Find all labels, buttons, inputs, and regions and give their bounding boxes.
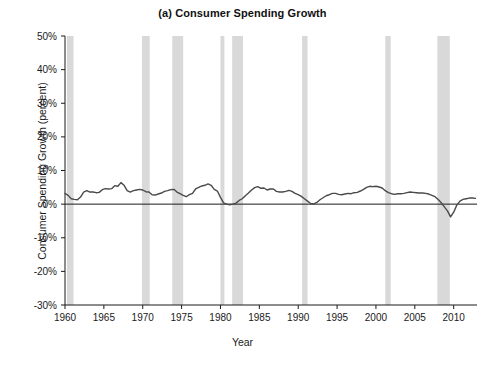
- x-tick-label: 1965: [93, 312, 116, 323]
- chart-figure: (a) Consumer Spending Growth Consumer Sp…: [0, 0, 485, 367]
- x-tick-group: 1960196519701975198019851990199520002005…: [54, 305, 465, 323]
- x-tick-label: 1980: [209, 312, 232, 323]
- y-tick-label: -20%: [34, 266, 57, 277]
- plot-area: 50%40%30%20%10%0%-10%-20%-30% 1960196519…: [0, 0, 485, 367]
- data-series-group: [65, 183, 475, 217]
- y-tick-label: -10%: [34, 232, 57, 243]
- recession-band: [385, 36, 390, 305]
- x-tick-label: 1990: [287, 312, 310, 323]
- x-tick-label: 1960: [54, 312, 77, 323]
- x-tick-label: 1985: [248, 312, 271, 323]
- recession-band: [437, 36, 449, 305]
- y-tick-label: 20%: [37, 131, 57, 142]
- recession-band: [232, 36, 243, 305]
- x-tick-label: 1995: [326, 312, 349, 323]
- axes-group: [65, 36, 477, 305]
- x-tick-label: 1970: [132, 312, 155, 323]
- y-tick-label: -30%: [34, 300, 57, 311]
- recession-band: [172, 36, 183, 305]
- y-tick-label: 0%: [43, 199, 58, 210]
- x-tick-label: 2010: [443, 312, 466, 323]
- recession-bands-group: [67, 36, 450, 305]
- y-tick-label: 10%: [37, 165, 57, 176]
- y-tick-label: 30%: [37, 98, 57, 109]
- data-line: [65, 183, 475, 217]
- y-tick-group: 50%40%30%20%10%0%-10%-20%-30%: [34, 31, 65, 311]
- recession-band: [142, 36, 150, 305]
- x-tick-label: 2000: [365, 312, 388, 323]
- recession-band: [67, 36, 74, 305]
- y-tick-label: 50%: [37, 31, 57, 42]
- x-tick-label: 2005: [404, 312, 427, 323]
- recession-band: [220, 36, 224, 305]
- recession-band: [302, 36, 307, 305]
- y-tick-label: 40%: [37, 64, 57, 75]
- x-tick-label: 1975: [170, 312, 193, 323]
